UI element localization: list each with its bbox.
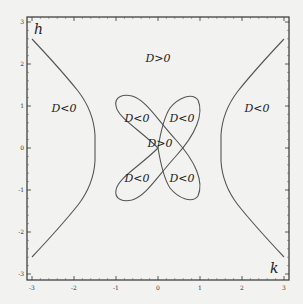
- region-label-inner-bottom-right: D<0: [168, 172, 194, 185]
- x-tick-label: 2: [240, 284, 244, 291]
- region-label-inner-center: D>0: [146, 137, 172, 150]
- region-label-outer-top: D>0: [144, 52, 170, 65]
- region-labels: D>0 D<0 D<0 D<0 D<0 D>0 D<0 D<0: [50, 52, 269, 185]
- y-axis-label: h: [34, 21, 43, 37]
- x-tick-labels: -3 -2 -1 0 1 2 3: [29, 284, 286, 291]
- left-boundary-curve: [32, 39, 95, 257]
- x-tick-label: 3: [282, 284, 286, 291]
- x-tick-label: -3: [29, 284, 35, 291]
- region-label-inner-bottom-left: D<0: [123, 172, 149, 185]
- y-tick-label: 0: [20, 144, 24, 151]
- region-label-inner-top-left: D<0: [123, 112, 149, 125]
- right-boundary-curve: [221, 39, 284, 257]
- y-tick-label: -3: [18, 270, 24, 277]
- x-tick-label: 1: [198, 284, 202, 291]
- region-label-inner-top-right: D<0: [168, 112, 194, 125]
- x-tick-label: -1: [113, 284, 119, 291]
- y-tick-label: -2: [18, 228, 24, 235]
- y-tick-label: 2: [20, 60, 24, 67]
- chart-plot: -3 -2 -1 0 1 2 3 3 2 1 0 -1 -2 -3 D>0 D<…: [0, 0, 303, 304]
- x-tick-label: -2: [71, 284, 77, 291]
- region-label-outer-right: D<0: [243, 102, 269, 115]
- y-tick-label: 3: [20, 18, 24, 25]
- x-axis-label: k: [270, 260, 278, 276]
- x-tick-label: 0: [156, 284, 160, 291]
- y-tick-label: -1: [18, 186, 24, 193]
- region-label-outer-left: D<0: [50, 102, 76, 115]
- y-tick-labels: 3 2 1 0 -1 -2 -3: [18, 18, 24, 277]
- y-tick-label: 1: [20, 102, 24, 109]
